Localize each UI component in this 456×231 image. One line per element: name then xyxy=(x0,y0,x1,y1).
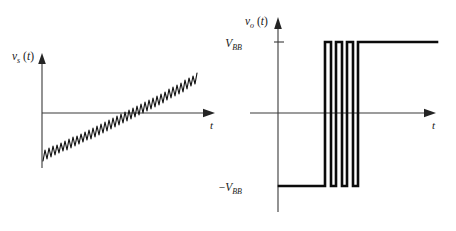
output-y-axis-label: vo (t) xyxy=(245,15,268,30)
y-axis-arrowhead xyxy=(38,53,46,64)
square-wave-waveform xyxy=(279,42,437,186)
output-signal-chart: vo (t) VBB −VBB t xyxy=(228,0,456,231)
level-label-high: VBB xyxy=(225,37,242,52)
input-x-axis-label: t xyxy=(210,119,214,131)
noisy-ramp-waveform xyxy=(43,73,197,161)
figure-root: vs (t) t vo (t) VBB xyxy=(0,0,456,231)
panel-output-signal: vo (t) VBB −VBB t xyxy=(228,0,456,231)
output-x-axis-label: t xyxy=(432,119,436,131)
panel-input-signal: vs (t) t xyxy=(0,0,228,231)
input-signal-chart: vs (t) t xyxy=(0,0,228,231)
x-axis-arrowhead xyxy=(424,109,436,117)
input-y-axis-label: vs (t) xyxy=(12,50,34,65)
x-axis-arrowhead xyxy=(203,109,215,117)
y-axis-arrowhead xyxy=(274,17,282,29)
